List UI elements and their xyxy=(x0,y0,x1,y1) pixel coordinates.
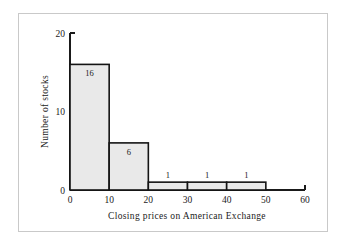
bar-value-label: 1 xyxy=(205,170,209,180)
y-tick-label: 20 xyxy=(56,29,66,39)
x-tick-label: 20 xyxy=(144,195,154,205)
histogram-figure: 16 6 1 1 1 0 10 20 0 10 20 30 40 50 60 C… xyxy=(0,0,346,244)
y-axis-title: Number of stocks xyxy=(40,75,50,148)
x-tick-label: 40 xyxy=(222,195,232,205)
bar-bin-40-50 xyxy=(227,182,266,190)
x-tick-label: 60 xyxy=(300,195,310,205)
bar-value-label: 1 xyxy=(244,170,248,180)
x-tick-label: 50 xyxy=(261,195,271,205)
bar-bin-30-40 xyxy=(188,182,227,190)
bar-value-label: 1 xyxy=(166,170,170,180)
bar-value-label: 6 xyxy=(127,147,131,157)
histogram-plot: 16 6 1 1 1 0 10 20 0 10 20 30 40 50 60 C… xyxy=(0,0,346,244)
bar-value-label: 16 xyxy=(85,68,94,78)
y-tick-label: 0 xyxy=(60,186,65,196)
x-tick-label: 30 xyxy=(183,195,193,205)
x-tick-label: 10 xyxy=(104,195,114,205)
bar-bin-0-10 xyxy=(70,64,109,190)
bar-bin-20-30 xyxy=(148,182,187,190)
y-tick-label: 10 xyxy=(56,107,66,117)
x-axis-title: Closing prices on American Exchange xyxy=(108,211,266,221)
x-tick-label: 0 xyxy=(68,195,73,205)
